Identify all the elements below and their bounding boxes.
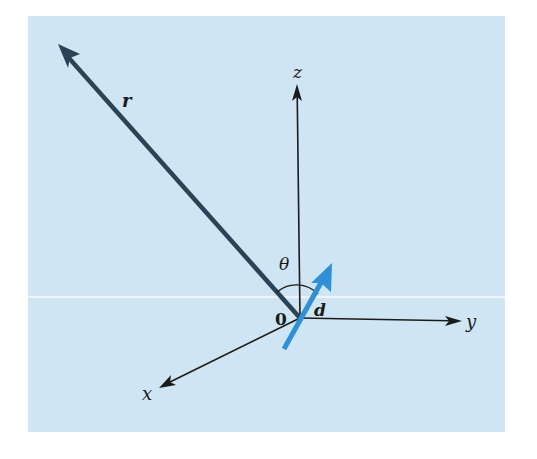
d-vector-label: d [314,300,326,320]
r-vector [68,57,300,318]
z-axis-label: z [292,62,303,82]
r-vector-label: r [122,90,133,111]
theta-label: θ [279,254,289,274]
x-axis-arrowhead-icon [159,375,176,388]
dipole-diagram: z y x r 0 d θ [0,0,537,459]
origin-label: 0 [275,309,287,329]
y-axis-label: y [465,311,477,332]
x-axis-label: x [142,383,152,404]
theta-arc [277,285,318,294]
d-dipole-arrowhead-icon [311,263,332,292]
